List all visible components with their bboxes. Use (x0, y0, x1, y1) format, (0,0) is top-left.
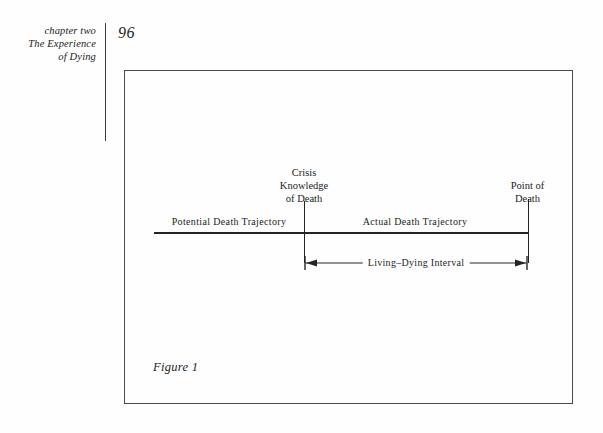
point-of-death-label-line-2: Death (511, 192, 545, 205)
running-head-line-3: of Dying (8, 50, 96, 63)
actual-death-trajectory-label: Actual Death Trajectory (363, 215, 468, 228)
crisis-knowledge-label-line-3: of Death (280, 192, 328, 205)
timeline-axis-line (154, 232, 528, 234)
crisis-knowledge-label: Crisis Knowledge of Death (280, 166, 328, 205)
point-of-death-label-line-1: Point of (511, 179, 545, 192)
running-head: chapter two The Experience of Dying (8, 24, 96, 64)
living-dying-interval-label: Living–Dying Interval (363, 256, 470, 269)
figure-frame: Crisis Knowledge of Death Point of Death… (124, 70, 573, 404)
header-vertical-rule (105, 23, 106, 141)
crisis-point-tick (304, 201, 305, 263)
death-point-tick (528, 199, 529, 263)
timeline-diagram: Crisis Knowledge of Death Point of Death… (125, 71, 572, 403)
book-page: chapter two The Experience of Dying 96 C… (0, 0, 603, 433)
figure-caption: Figure 1 (153, 360, 198, 375)
potential-death-trajectory-label: Potential Death Trajectory (172, 215, 287, 228)
crisis-knowledge-label-line-2: Knowledge (280, 179, 328, 192)
running-head-line-1: chapter two (8, 24, 96, 37)
page-number: 96 (118, 24, 135, 42)
crisis-knowledge-label-line-1: Crisis (280, 166, 328, 179)
living-dying-interval: Living–Dying Interval (304, 255, 528, 273)
running-head-line-2: The Experience (8, 37, 96, 50)
point-of-death-label: Point of Death (511, 179, 545, 205)
